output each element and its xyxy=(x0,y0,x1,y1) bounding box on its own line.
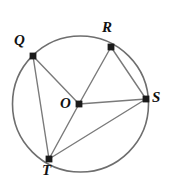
segment-O-S xyxy=(79,99,146,104)
vertex-label-q: Q xyxy=(14,33,25,48)
vertex-label-r: R xyxy=(102,20,112,35)
segment-O-R xyxy=(79,47,111,104)
point-marker-q xyxy=(30,53,37,60)
chord-segments-group xyxy=(33,47,146,159)
geometry-figure: Q R S T O xyxy=(0,0,172,185)
point-marker-o xyxy=(76,101,83,108)
point-marker-s xyxy=(143,96,150,103)
segment-Q-T xyxy=(33,56,49,159)
vertex-label-o: O xyxy=(60,96,71,111)
vertex-label-t: T xyxy=(42,163,51,178)
vertex-label-s: S xyxy=(152,90,160,105)
segment-O-T xyxy=(49,104,79,159)
circle-diagram-canvas xyxy=(0,0,172,185)
point-marker-r xyxy=(108,44,115,51)
